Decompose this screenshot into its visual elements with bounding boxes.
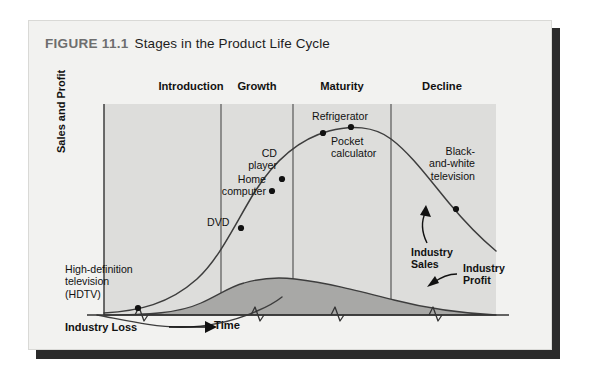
annotation-home-computer-line2: computer xyxy=(198,185,266,197)
annotation-cd-player: CD player xyxy=(225,147,277,172)
annotation-bw-television-line3: television xyxy=(399,170,475,182)
annotation-refrigerator: Refrigerator xyxy=(312,110,368,122)
annotation-bw-television-line2: and-white xyxy=(399,157,475,169)
figure-card-shadow-right xyxy=(552,28,560,359)
annotation-industry-sales-line2: Sales xyxy=(411,258,453,270)
annotation-industry-sales-line1: Industry xyxy=(411,246,453,258)
marker-bw-television xyxy=(453,206,459,212)
figure-card-shadow-bottom xyxy=(36,350,560,359)
marker-home-computer xyxy=(269,188,275,194)
figure-card: FIGURE 11.1Stages in the Product Life Cy… xyxy=(28,20,552,350)
annotation-pocket-calculator-line1: Pocket xyxy=(331,135,376,147)
annotation-hdtv: High-definition television (HDTV) xyxy=(65,263,133,300)
annotation-home-computer-line1: Home xyxy=(198,173,266,185)
annotation-cd-player-line2: player xyxy=(225,159,277,171)
annotation-pocket-calculator: Pocket calculator xyxy=(331,135,376,160)
x-axis-label: Time xyxy=(214,319,240,331)
marker-dvd xyxy=(238,225,244,231)
marker-pocket-calculator xyxy=(320,130,326,136)
annotation-industry-profit-line1: Industry xyxy=(463,262,505,274)
product-life-cycle-chart xyxy=(29,21,553,351)
annotation-hdtv-line3: (HDTV) xyxy=(65,288,133,300)
annotation-cd-player-line1: CD xyxy=(225,147,277,159)
annotation-home-computer: Home computer xyxy=(198,173,266,198)
annotation-hdtv-line1: High-definition xyxy=(65,263,133,275)
annotation-industry-profit: Industry Profit xyxy=(463,262,505,287)
annotation-dvd: DVD xyxy=(207,216,229,228)
annotation-pocket-calculator-line2: calculator xyxy=(331,147,376,159)
annotation-hdtv-line2: television xyxy=(65,275,133,287)
annotation-industry-profit-line2: Profit xyxy=(463,274,505,286)
industry-loss-label: Industry Loss xyxy=(65,321,137,333)
annotation-bw-television: Black- and-white television xyxy=(399,145,475,182)
marker-refrigerator xyxy=(348,124,354,130)
annotation-bw-television-line1: Black- xyxy=(399,145,475,157)
annotation-industry-sales: Industry Sales xyxy=(411,246,453,271)
marker-cd-player xyxy=(279,176,285,182)
marker-hdtv xyxy=(135,305,141,311)
chart-plot-area: High-definition television (HDTV) DVD Ho… xyxy=(29,21,553,351)
